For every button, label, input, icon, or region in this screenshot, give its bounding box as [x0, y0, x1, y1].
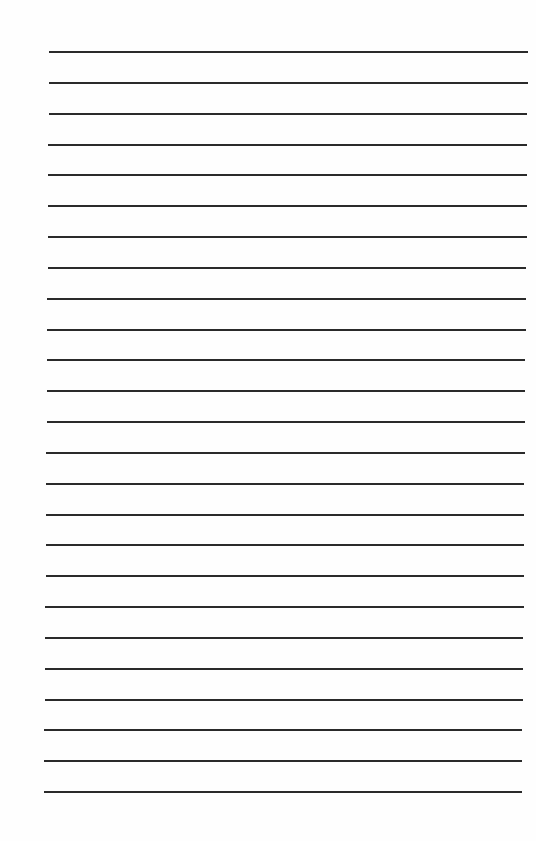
ruled-line	[47, 298, 526, 300]
ruled-line	[45, 637, 523, 639]
ruled-line	[45, 668, 523, 670]
ruled-line	[45, 606, 523, 608]
ruled-line	[47, 329, 526, 331]
ruled-line	[47, 421, 526, 423]
ruled-line	[49, 51, 528, 53]
ruled-line	[44, 729, 522, 731]
ruled-line	[49, 82, 528, 84]
ruled-line	[48, 236, 527, 238]
ruled-line	[48, 174, 527, 176]
ruled-line	[48, 205, 527, 207]
ruled-line	[47, 359, 526, 361]
ruled-line	[46, 514, 524, 516]
ruled-line	[46, 452, 525, 454]
ruled-line	[44, 760, 522, 762]
ruled-line	[44, 791, 522, 793]
lined-paper-page	[0, 0, 536, 841]
ruled-line	[45, 699, 523, 701]
ruled-line	[47, 390, 526, 392]
ruled-line	[46, 575, 524, 577]
ruled-line	[49, 113, 528, 115]
ruled-line	[48, 267, 527, 269]
ruled-line	[46, 544, 524, 546]
ruled-line	[46, 483, 524, 485]
ruled-line	[48, 144, 527, 146]
